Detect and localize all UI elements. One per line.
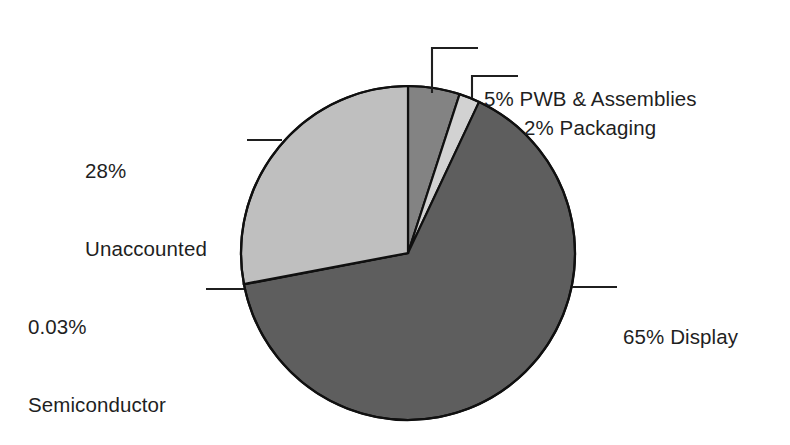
slice-label-unaccounted-value: 28% bbox=[85, 158, 207, 184]
slice-label-packaging: 2% Packaging bbox=[524, 63, 656, 193]
slice-label-semiconductor: 0.03% Semiconductor bbox=[28, 262, 166, 445]
pie-slice-unaccounted[interactable] bbox=[241, 86, 408, 284]
slice-label-display-text: 65% Display bbox=[623, 324, 738, 350]
slice-label-semiconductor-value: 0.03% bbox=[28, 314, 166, 340]
pie-chart-figure: 5% PWB & Assemblies 2% Packaging 28% Una… bbox=[0, 0, 790, 445]
slice-label-unaccounted-name: Unaccounted bbox=[85, 236, 207, 262]
slice-label-packaging-text: 2% Packaging bbox=[524, 115, 656, 141]
slice-label-semiconductor-name: Semiconductor bbox=[28, 392, 166, 418]
slice-label-display: 65% Display bbox=[623, 272, 738, 402]
